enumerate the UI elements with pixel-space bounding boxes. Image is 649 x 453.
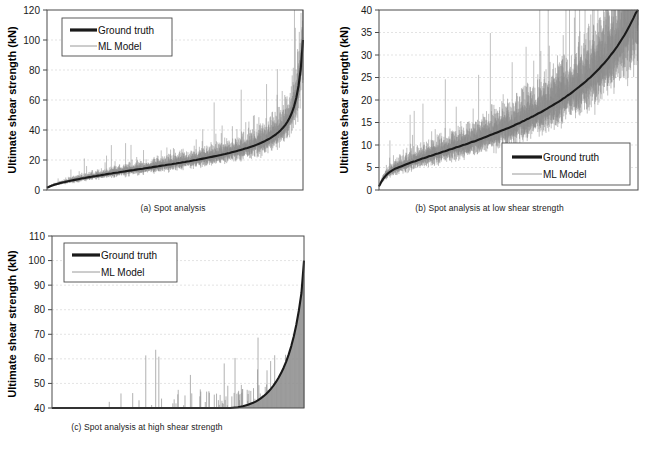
svg-text:0: 0 bbox=[34, 185, 40, 196]
svg-text:5: 5 bbox=[366, 162, 372, 173]
panel-a-legend-label-ml-model: ML Model bbox=[98, 41, 142, 52]
svg-text:25: 25 bbox=[361, 72, 373, 83]
panel-c-ylabel: Ultimate shear strength (kN) bbox=[6, 250, 18, 398]
panel-c-legend: Ground truth ML Model bbox=[64, 243, 177, 282]
panel-b-legend: Ground truth ML Model bbox=[502, 143, 630, 185]
svg-text:80: 80 bbox=[34, 304, 46, 315]
svg-text:120: 120 bbox=[23, 5, 40, 16]
panel-a-ticklabels: 020406080100120 bbox=[23, 5, 40, 196]
svg-text:50: 50 bbox=[34, 378, 46, 389]
panel-c-legend-label-ml-model: ML Model bbox=[101, 267, 145, 278]
svg-text:35: 35 bbox=[361, 27, 373, 38]
panel-a-plot: 020406080100120 Ultimate shear strength … bbox=[0, 0, 330, 205]
panel-c-ml-series bbox=[109, 261, 304, 408]
panel-c-caption: (c) Spot analysis at high shear strength bbox=[0, 422, 312, 432]
svg-text:80: 80 bbox=[29, 65, 41, 76]
svg-text:20: 20 bbox=[361, 95, 373, 106]
panel-a-caption: (a) Spot analysis bbox=[8, 203, 338, 213]
svg-text:40: 40 bbox=[29, 125, 41, 136]
svg-text:60: 60 bbox=[29, 95, 41, 106]
panel-b-legend-label-ground-truth: Ground truth bbox=[543, 152, 599, 163]
svg-text:15: 15 bbox=[361, 117, 373, 128]
chart-panel-b: 0510152025303540 Ultimate shear strength… bbox=[330, 0, 649, 226]
svg-text:20: 20 bbox=[29, 155, 41, 166]
chart-panel-a: 020406080100120 Ultimate shear strength … bbox=[0, 0, 330, 226]
svg-text:40: 40 bbox=[34, 403, 46, 414]
svg-text:30: 30 bbox=[361, 50, 373, 61]
panel-b-legend-label-ml-model: ML Model bbox=[543, 169, 587, 180]
panel-c-yticks bbox=[48, 236, 52, 408]
svg-text:10: 10 bbox=[361, 140, 373, 151]
panel-c-legend-label-ground-truth: Ground truth bbox=[101, 250, 157, 261]
panel-b-plot: 0510152025303540 Ultimate shear strength… bbox=[330, 0, 649, 205]
svg-text:60: 60 bbox=[34, 353, 46, 364]
panel-c-plot: 405060708090100110 Ultimate shear streng… bbox=[0, 226, 330, 424]
svg-text:40: 40 bbox=[361, 5, 373, 16]
svg-text:0: 0 bbox=[366, 185, 372, 196]
chart-panel-c: 405060708090100110 Ultimate shear streng… bbox=[0, 226, 330, 453]
panel-c-ticklabels: 405060708090100110 bbox=[28, 231, 45, 414]
svg-text:100: 100 bbox=[23, 35, 40, 46]
svg-text:100: 100 bbox=[28, 255, 45, 266]
panel-a-legend: Ground truth ML Model bbox=[62, 18, 172, 56]
svg-text:70: 70 bbox=[34, 329, 46, 340]
panel-b-ticklabels: 0510152025303540 bbox=[361, 5, 373, 196]
svg-text:110: 110 bbox=[29, 231, 45, 242]
panel-a-ylabel: Ultimate shear strength (kN) bbox=[6, 26, 18, 174]
panel-b-ylabel: Ultimate shear strength (kN) bbox=[338, 26, 350, 174]
panel-b-caption: (b) Spot analysis at low shear strength bbox=[330, 203, 649, 213]
panel-b-yticks bbox=[375, 10, 379, 190]
panel-a-yticks bbox=[43, 10, 47, 190]
panel-a-legend-label-ground-truth: Ground truth bbox=[98, 25, 154, 36]
svg-text:90: 90 bbox=[34, 280, 46, 291]
